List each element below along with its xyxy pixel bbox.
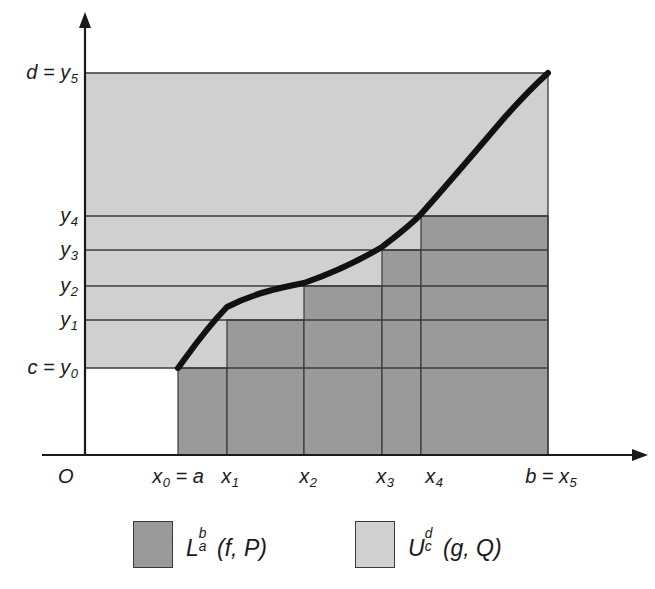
- legend-swatch-lower-sum: [133, 521, 173, 568]
- lower-rect-5: [421, 216, 548, 455]
- lower-rect-4: [382, 250, 421, 455]
- plot-svg: [0, 0, 655, 589]
- x-axis-label-x2: x2: [278, 466, 338, 489]
- y-axis-label-y4: y4: [0, 205, 78, 228]
- y-axis-label-y1: y1: [0, 309, 78, 332]
- x-axis-label-x5: b = x5: [496, 466, 606, 489]
- legend-supsub-lower: ba: [199, 533, 213, 556]
- legend-label-lower-sum: Lba(f, P): [186, 533, 267, 560]
- y-axis-label-y2: y2: [0, 275, 78, 298]
- x-axis-arrowhead: [632, 449, 648, 461]
- y-axis-label-y5: d = y5: [0, 62, 78, 85]
- x-axis-label-x1: x1: [200, 466, 260, 489]
- figure-container: d = y5 y4 y3 y2 y1 c = y0 O x0 = a x1 x2…: [0, 0, 655, 589]
- legend-label-upper-sum: Udc(g, Q): [408, 533, 502, 560]
- lower-rect-2: [227, 320, 304, 455]
- lower-rect-3: [304, 286, 382, 455]
- lower-rect-1: [178, 368, 227, 455]
- upper-sum-left-extension: [86, 73, 178, 368]
- x-axis-label-x4: x4: [404, 466, 464, 489]
- legend-swatch-upper-sum: [355, 521, 395, 568]
- y-axis-label-y0: c = y0: [0, 357, 78, 380]
- y-axis-arrowhead: [79, 12, 91, 28]
- origin-label: O: [58, 466, 74, 486]
- legend-supsub-upper: dc: [425, 533, 439, 556]
- y-axis-label-y3: y3: [0, 239, 78, 262]
